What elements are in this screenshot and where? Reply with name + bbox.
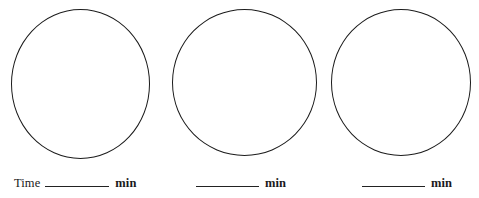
clock-face-circle-2[interactable] [172, 9, 317, 156]
unit-label-3: min [431, 176, 452, 190]
clock-face-circle-1[interactable] [11, 9, 150, 159]
answer-line-3: min [362, 176, 452, 190]
answer-line-1: Time min [14, 176, 136, 190]
clock-group-3: min [320, 0, 479, 198]
answer-blank-3[interactable] [362, 177, 425, 187]
answer-blank-1[interactable] [45, 177, 109, 187]
clock-group-2: min [160, 0, 330, 198]
unit-label-1: min [115, 176, 136, 190]
answer-line-2: min [196, 176, 286, 190]
unit-label-2: min [265, 176, 286, 190]
clock-face-circle-3[interactable] [331, 9, 471, 156]
clock-group-1: Time min [0, 0, 170, 198]
worksheet-canvas: Time min min min [0, 0, 479, 198]
answer-blank-2[interactable] [196, 177, 259, 187]
time-label-1: Time [14, 176, 40, 190]
